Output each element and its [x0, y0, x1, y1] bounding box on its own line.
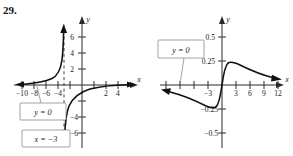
curve-29-left-branch [24, 32, 64, 84]
y-tick-label-31-0: 0.5 [206, 33, 216, 42]
worksheet-page: 29. [0, 0, 293, 156]
x-tick-label-29-1: −8 [30, 89, 38, 98]
x-axis-label-31: x [284, 75, 289, 84]
y-tick-label-29-3: −4 [70, 113, 78, 122]
x-axis-label-29: x [136, 75, 141, 84]
callout-29-y0-text: y = 0 [33, 108, 51, 117]
x-tick-label-29-5: 4 [116, 89, 120, 98]
problem-31-graph: −3 3 6 9 12 0.5 0.25 −0.25 −0.5 x y y = [146, 0, 293, 156]
callout-29-x-3: x = −3 [22, 130, 70, 147]
y-axis-label-31: y [225, 15, 230, 24]
x-tick-label-31-1: 3 [234, 89, 238, 98]
x-tick-label-31-2: 6 [248, 89, 252, 98]
problem-29-number: 29. [3, 5, 17, 16]
y-tick-label-31-1: 0.25 [202, 57, 215, 66]
y-tick-label-29-0: 6 [70, 33, 74, 42]
callout-29-x-3-text: x = −3 [34, 135, 58, 144]
curve-31-right-arrowhead [271, 75, 282, 82]
curve-29-left-arrowhead [60, 24, 67, 33]
x-tick-label-29-4: 2 [104, 89, 108, 98]
callout-31-y0-text: y = 0 [171, 46, 189, 55]
x-tick-label-29-2: −6 [42, 89, 50, 98]
curve-29-left-tail-arrowhead [15, 81, 24, 87]
y-tick-label-29-2: 2 [70, 65, 74, 74]
y-tick-label-31-3: −0.5 [204, 129, 218, 138]
problem-29-panel: 29. [0, 0, 146, 156]
y-axis-29 [79, 16, 85, 148]
x-tick-label-29-3: −4 [54, 89, 62, 98]
y-tick-label-29-4: −6 [70, 129, 78, 138]
y-tick-label-29-1: 4 [70, 49, 74, 58]
x-tick-label-29-0: −10 [16, 89, 28, 98]
callout-31-y0: y = 0 [158, 40, 204, 84]
problem-31-panel: 31. [146, 0, 293, 156]
x-tick-label-31-3: 9 [262, 89, 266, 98]
curve-31-left-arrowhead [161, 88, 171, 95]
y-axis-label-29: y [85, 15, 90, 24]
problem-29-graph: −10 −8 −6 −4 2 4 6 4 2 −4 −6 x y [0, 0, 146, 156]
x-tick-label-31-0: −3 [204, 89, 212, 98]
x-tick-label-31-4: 12 [274, 89, 282, 98]
